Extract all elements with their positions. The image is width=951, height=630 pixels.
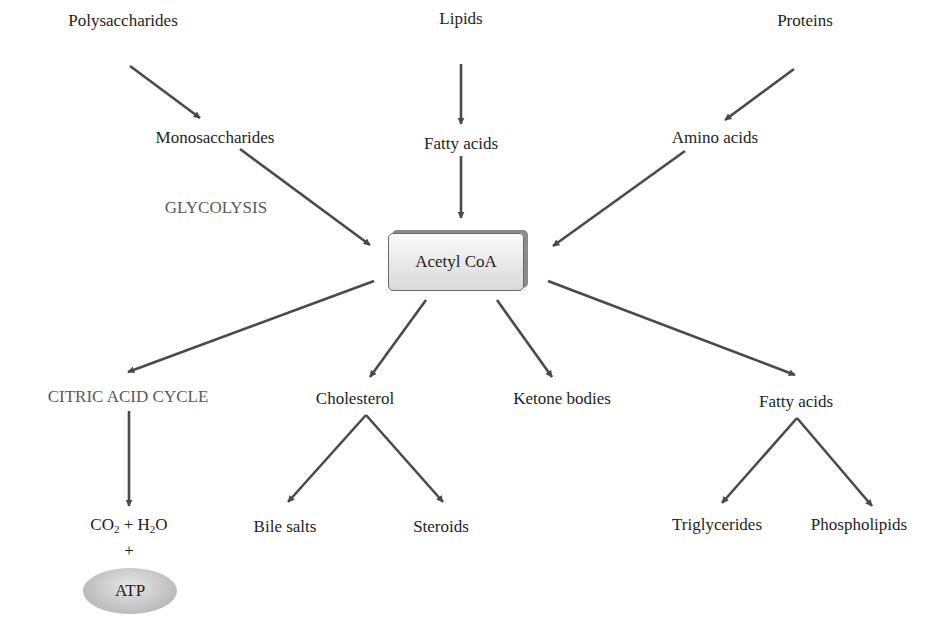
arrow-fatty-to-phospho	[797, 418, 872, 506]
arrows-layer	[0, 0, 951, 630]
process-citric-acid-cycle: CITRIC ACID CYCLE	[48, 388, 209, 405]
node-steroids: Steroids	[413, 518, 469, 535]
acetyl-coa-label: Acetyl CoA	[415, 252, 497, 272]
arrow-proteins-to-amino	[725, 69, 794, 120]
node-monosaccharides: Monosaccharides	[156, 129, 275, 146]
node-phospholipids: Phospholipids	[811, 516, 907, 533]
arrow-chol-to-steroids	[366, 415, 443, 502]
node-triglycerides: Triglycerides	[672, 516, 762, 533]
h2o-o-text: O	[155, 515, 167, 534]
arrow-acetyl-to-fatty-bottom	[548, 281, 795, 375]
node-cholesterol: Cholesterol	[316, 390, 394, 407]
process-glycolysis: GLYCOLYSIS	[165, 199, 267, 216]
h2o-text: + H	[119, 515, 149, 534]
arrow-acetyl-to-tca	[128, 281, 374, 372]
node-polysaccharides: Polysaccharides	[68, 12, 178, 29]
node-atp: ATP	[83, 568, 177, 614]
arrow-amino-to-acetyl	[553, 151, 685, 246]
arrow-chol-to-bile	[288, 415, 366, 502]
atp-label: ATP	[115, 581, 145, 601]
node-proteins: Proteins	[777, 12, 833, 29]
node-fatty-acids-top: Fatty acids	[424, 135, 498, 152]
node-co2-h2o: CO2 + H2O	[90, 516, 167, 535]
arrow-acetyl-to-cholesterol	[370, 300, 426, 377]
co2-text: CO	[90, 515, 114, 534]
plus-sign: +	[124, 542, 134, 559]
arrow-fatty-to-tri	[722, 418, 797, 503]
arrow-acetyl-to-ketone	[497, 300, 552, 377]
node-amino-acids: Amino acids	[672, 129, 758, 146]
node-acetyl-coa: Acetyl CoA	[388, 233, 524, 291]
arrow-poly-to-mono	[130, 66, 200, 118]
node-bile-salts: Bile salts	[254, 518, 317, 535]
node-ketone-bodies: Ketone bodies	[513, 390, 611, 407]
node-fatty-acids-bottom: Fatty acids	[759, 393, 833, 410]
node-lipids: Lipids	[439, 10, 482, 27]
